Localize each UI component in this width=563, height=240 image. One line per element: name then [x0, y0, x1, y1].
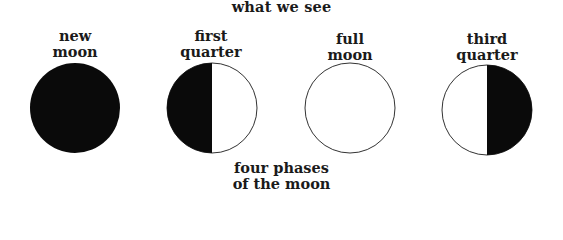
diagram-caption: four phases of the moon — [0, 160, 563, 192]
third-quarter-moon-icon — [442, 65, 532, 155]
full-moon-icon — [305, 63, 395, 153]
new-moon-icon — [30, 63, 120, 153]
first-quarter-moon-icon — [167, 63, 257, 153]
caption-line: of the moon — [0, 176, 563, 192]
caption-line: four phases — [0, 160, 563, 176]
